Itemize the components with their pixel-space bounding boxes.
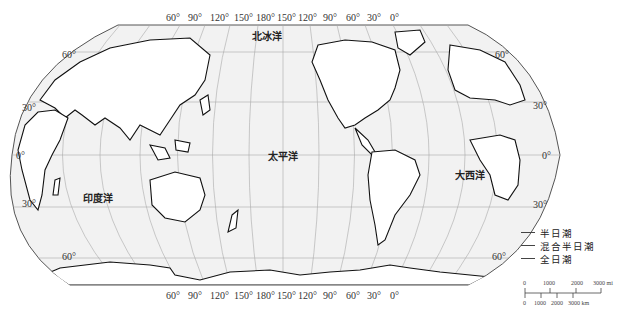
lon-label-top-0: 60° bbox=[166, 13, 180, 23]
lon-label-bottom-10: 0° bbox=[390, 291, 399, 301]
tide-type-legend: 半日潮 混合半日潮 全日潮 bbox=[521, 226, 628, 265]
lat-label-right-3: 30° bbox=[533, 200, 547, 210]
lon-label-top-6: 120° bbox=[298, 13, 317, 23]
lat-label-right-1: 30° bbox=[533, 101, 547, 111]
lat-label-left-2: 0° bbox=[16, 151, 25, 161]
ocean-label-indian: 印度洋 bbox=[83, 190, 113, 205]
lon-label-bottom-1: 90° bbox=[188, 291, 202, 301]
scale-km-0: 0 bbox=[523, 300, 526, 306]
lon-label-top-2: 120° bbox=[210, 13, 229, 23]
scale-bar: 0 1000 2000 3000 mi 0 1000 2000 3000 km bbox=[521, 280, 628, 310]
lon-label-top-5: 150° bbox=[277, 13, 296, 23]
ocean-label-atlantic: 大西洋 bbox=[455, 167, 485, 182]
legend-line-icon bbox=[521, 232, 535, 233]
lon-label-bottom-5: 150° bbox=[277, 291, 296, 301]
lon-label-bottom-7: 90° bbox=[323, 291, 337, 301]
lat-label-left-4: 60° bbox=[62, 252, 76, 262]
legend-line-icon bbox=[521, 245, 535, 246]
ocean-label-pacific: 太平洋 bbox=[268, 148, 298, 163]
lon-label-top-9: 30° bbox=[367, 13, 381, 23]
legend-item-diurnal: 全日潮 bbox=[521, 252, 628, 265]
scale-mi-1000: 1000 bbox=[543, 280, 555, 286]
lat-label-left-0: 60° bbox=[62, 50, 76, 60]
lon-label-bottom-6: 120° bbox=[298, 291, 317, 301]
scale-km-2000: 2000 bbox=[551, 300, 563, 306]
scale-km-3000: 3000 km bbox=[568, 300, 589, 306]
lon-label-bottom-4: 180° bbox=[256, 291, 275, 301]
lat-label-right-0: 60° bbox=[495, 50, 509, 60]
legend-item-mixed-semidiurnal: 混合半日潮 bbox=[521, 239, 628, 252]
legend-label: 混合半日潮 bbox=[540, 239, 595, 253]
scale-km-1000: 1000 bbox=[534, 300, 546, 306]
lon-label-top-3: 150° bbox=[234, 13, 253, 23]
lon-label-top-8: 60° bbox=[346, 13, 360, 23]
lon-label-top-1: 90° bbox=[188, 13, 202, 23]
lon-label-bottom-0: 60° bbox=[166, 291, 180, 301]
lon-label-top-10: 0° bbox=[390, 13, 399, 23]
lon-label-bottom-2: 120° bbox=[210, 291, 229, 301]
ocean-label-arctic: 北冰洋 bbox=[252, 28, 282, 43]
world-map bbox=[0, 0, 628, 319]
scale-mi-2000: 2000 bbox=[571, 280, 583, 286]
legend-label: 全日潮 bbox=[540, 252, 573, 266]
scale-mi-3000: 3000 mi bbox=[593, 280, 613, 286]
scale-mi-0: 0 bbox=[523, 280, 526, 286]
lon-label-bottom-9: 30° bbox=[367, 291, 381, 301]
scale-bar-ruler bbox=[521, 287, 611, 299]
lat-label-right-4: 60° bbox=[492, 252, 506, 262]
lon-label-bottom-8: 60° bbox=[346, 291, 360, 301]
lon-label-top-7: 90° bbox=[323, 13, 337, 23]
legend-label: 半日潮 bbox=[540, 226, 573, 240]
lon-label-top-4: 180° bbox=[256, 13, 275, 23]
legend-line-icon bbox=[521, 258, 535, 259]
lat-label-left-1: 30° bbox=[22, 103, 36, 113]
lon-label-bottom-3: 150° bbox=[234, 291, 253, 301]
lat-label-right-2: 0° bbox=[542, 151, 551, 161]
legend-item-semidiurnal: 半日潮 bbox=[521, 226, 628, 239]
lat-label-left-3: 30° bbox=[22, 199, 36, 209]
